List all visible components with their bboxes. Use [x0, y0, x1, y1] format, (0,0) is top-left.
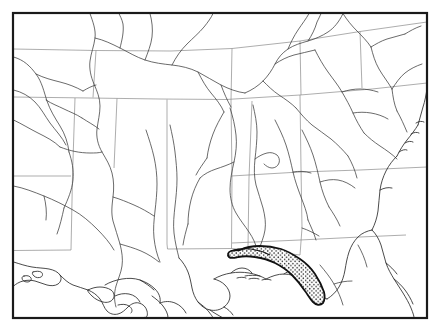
state-boundary	[14, 250, 71, 251]
map-background	[0, 0, 441, 336]
map-canvas	[0, 0, 441, 336]
species-distribution-map	[0, 0, 441, 336]
